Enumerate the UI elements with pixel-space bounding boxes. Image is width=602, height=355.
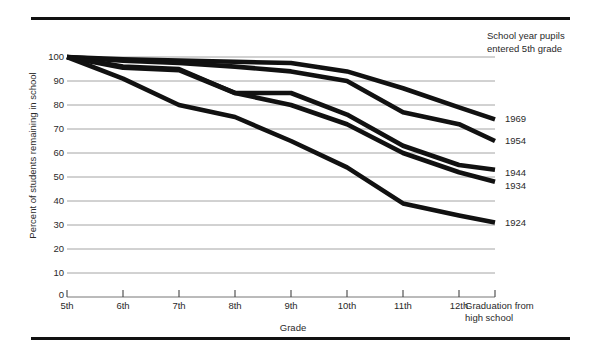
- y-tick-40: 40: [40, 195, 64, 206]
- x-tick-11th: 11th: [380, 300, 426, 311]
- series-label-1969: 1969: [505, 113, 526, 124]
- y-axis-title: Percent of students remaining in school: [27, 71, 38, 241]
- y-tick-70: 70: [40, 123, 64, 134]
- x-tick-7th: 7th: [156, 300, 202, 311]
- y-tick-20: 20: [40, 243, 64, 254]
- series-label-1954: 1954: [505, 135, 526, 146]
- y-tick-60: 60: [40, 147, 64, 158]
- series-label-1944: 1944: [505, 167, 526, 178]
- y-tick-30: 30: [40, 219, 64, 230]
- series-lines: [67, 57, 495, 223]
- y-tick-100: 100: [40, 51, 64, 62]
- legend-title-line2: entered 5th grade: [487, 42, 565, 55]
- series-label-1924: 1924: [505, 217, 526, 228]
- figure-container: 100 90 80 70 60 50 40 30 20 10 0 5th 6th…: [0, 0, 602, 355]
- y-tick-90: 90: [40, 75, 64, 86]
- x-axis-title: Grade: [243, 322, 343, 333]
- x-tick-5th: 5th: [44, 300, 90, 311]
- x-tick-10th: 10th: [324, 300, 370, 311]
- y-tick-80: 80: [40, 99, 64, 110]
- legend-title-line1: School year pupils: [487, 29, 565, 42]
- gridlines: [67, 57, 495, 273]
- series-label-1934: 1934: [505, 180, 526, 191]
- x-tick-graduation-line1: Graduation from: [465, 300, 534, 311]
- y-tick-10: 10: [40, 267, 64, 278]
- x-axis: [67, 290, 495, 297]
- x-tick-graduation-line2: high school: [465, 312, 513, 323]
- x-tick-8th: 8th: [212, 300, 258, 311]
- legend-title: School year pupils entered 5th grade: [487, 29, 565, 55]
- x-tick-6th: 6th: [100, 300, 146, 311]
- series-line-1924: [67, 57, 495, 223]
- y-tick-0: 0: [40, 289, 64, 300]
- x-tick-9th: 9th: [268, 300, 314, 311]
- y-tick-50: 50: [40, 171, 64, 182]
